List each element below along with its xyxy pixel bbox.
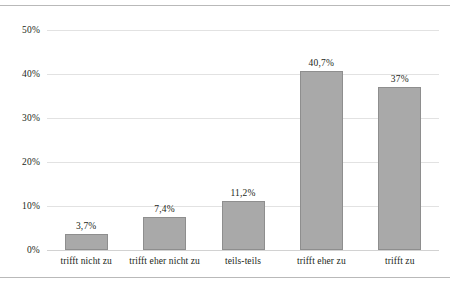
- bar-group: 11,2%: [222, 30, 265, 250]
- bar-value-label: 3,7%: [76, 221, 97, 232]
- y-axis-tick-label: 10%: [4, 201, 40, 211]
- bar-chart-figure: 0%10%20%30%40%50% 3,7%7,4%11,2%40,7%37% …: [0, 0, 450, 284]
- x-axis-tick-label: trifft nicht zu: [60, 255, 111, 268]
- y-axis-tick-label: 40%: [4, 69, 40, 79]
- x-axis-tick-label: trifft eher nicht zu: [129, 255, 200, 268]
- bar-group: 7,4%: [143, 30, 186, 250]
- bar-value-label: 37%: [391, 74, 409, 85]
- x-axis-tick-label: teils-teils: [225, 255, 261, 268]
- axis-baseline: [47, 250, 439, 251]
- bar: [378, 87, 421, 250]
- figure-bottom-rule: [0, 277, 450, 278]
- bar-value-label: 11,2%: [230, 188, 255, 199]
- bar-value-label: 40,7%: [309, 58, 335, 69]
- plot-area: 0%10%20%30%40%50% 3,7%7,4%11,2%40,7%37%: [47, 30, 439, 250]
- x-axis-tick-label: trifft eher zu: [297, 255, 346, 268]
- x-axis-tick-label: trifft zu: [385, 255, 414, 268]
- x-axis-tick-labels: trifft nicht zutrifft eher nicht zuteils…: [47, 255, 439, 271]
- bar: [300, 71, 343, 250]
- bar-value-label: 7,4%: [154, 204, 175, 215]
- y-axis-tick-label: 30%: [4, 113, 40, 123]
- bar: [65, 234, 108, 250]
- bar: [143, 217, 186, 250]
- bar-group: 3,7%: [65, 30, 108, 250]
- bar-group: 37%: [378, 30, 421, 250]
- figure-top-rule: [0, 5, 450, 6]
- bar: [222, 201, 265, 250]
- y-axis-tick-label: 50%: [4, 25, 40, 35]
- y-axis-tick-label: 0%: [4, 245, 40, 255]
- bar-group: 40,7%: [300, 30, 343, 250]
- y-axis-tick-label: 20%: [4, 157, 40, 167]
